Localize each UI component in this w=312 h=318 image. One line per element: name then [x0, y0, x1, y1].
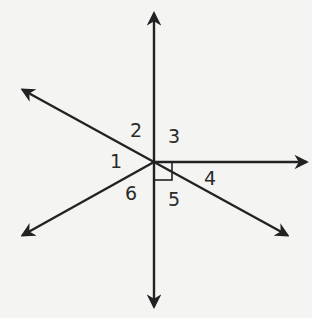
angles-diagram: 123456	[0, 0, 312, 318]
angle-label-3: 3	[168, 125, 180, 147]
angle-labels: 123456	[110, 119, 216, 210]
angle-label-2: 2	[130, 119, 142, 141]
angle-label-4: 4	[204, 167, 216, 189]
angle-label-1: 1	[110, 150, 122, 172]
angle-label-6: 6	[125, 182, 137, 204]
rays	[23, 14, 306, 306]
angle-label-5: 5	[168, 188, 180, 210]
